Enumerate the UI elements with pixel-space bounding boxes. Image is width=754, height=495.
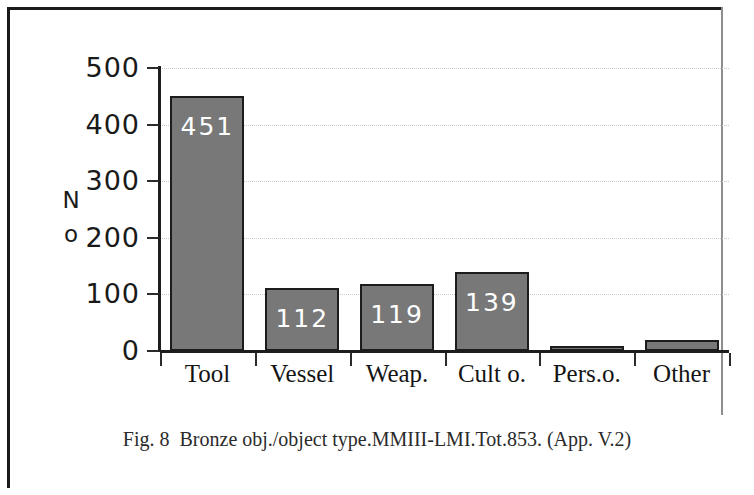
y-axis-tick-label: 400 xyxy=(0,111,140,138)
gridline xyxy=(160,294,729,295)
figure-caption-label: Fig. 8 xyxy=(123,428,170,450)
x-axis-category-label: Pers.o. xyxy=(539,360,634,389)
y-axis-title-char: o xyxy=(58,217,84,251)
y-axis-tick-mark xyxy=(147,293,159,295)
gridline xyxy=(160,238,729,239)
bar xyxy=(645,340,719,351)
gridline xyxy=(160,125,729,126)
bar-value-label: 112 xyxy=(265,306,339,331)
gridline xyxy=(160,68,729,69)
figure-caption-text: Bronze obj./object type.MMIII-LMI.Tot.85… xyxy=(180,428,632,450)
x-axis-tick-mark xyxy=(729,353,731,366)
y-axis-tick-mark xyxy=(147,67,159,69)
x-axis-category-label: Cult o. xyxy=(445,360,540,389)
y-axis-tick-label: 500 xyxy=(0,54,140,81)
bar-value-label: 139 xyxy=(455,290,529,315)
bar-value-label: 119 xyxy=(360,302,434,327)
y-axis-title: No xyxy=(58,183,84,251)
y-axis-tick-label: 100 xyxy=(0,280,140,307)
x-axis-category-label: Other xyxy=(634,360,729,389)
x-axis-category-label: Weap. xyxy=(350,360,445,389)
y-axis-tick-mark xyxy=(147,350,159,352)
y-axis-tick-label: 0 xyxy=(0,337,140,364)
gridline xyxy=(160,181,729,182)
y-axis-tick-mark xyxy=(147,237,159,239)
x-axis-category-label: Vessel xyxy=(255,360,350,389)
figure-caption: Fig. 8Bronze obj./object type.MMIII-LMI.… xyxy=(0,428,754,451)
bar xyxy=(550,346,624,351)
bar-value-label: 451 xyxy=(170,114,244,139)
bar-chart: 0100200300400500 No 451112119139 ToolVes… xyxy=(0,0,754,400)
y-axis-title-char: N xyxy=(58,183,84,217)
y-axis-tick-mark xyxy=(147,180,159,182)
figure-page: 0100200300400500 No 451112119139 ToolVes… xyxy=(0,0,754,495)
y-axis-tick-mark xyxy=(147,124,159,126)
y-axis-line xyxy=(158,66,161,352)
x-axis-category-label: Tool xyxy=(160,360,255,389)
